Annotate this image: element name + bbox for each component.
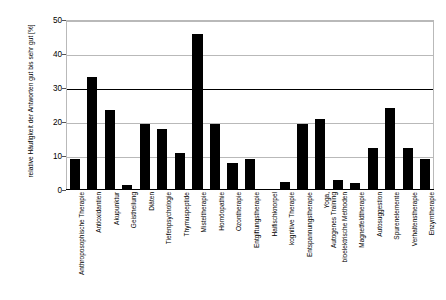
x-tick-label: Tiefenpsychologie (166, 192, 178, 296)
y-tick-label-40: 40 (0, 50, 66, 59)
bar-slot (140, 20, 150, 190)
x-tick-label: Entgiftungstherapie (254, 192, 266, 296)
bar (157, 129, 167, 190)
x-tick-label: Diäten (149, 192, 161, 296)
bar (315, 119, 325, 190)
bar (105, 110, 115, 190)
x-tick-label: Homöopathie (219, 192, 231, 296)
bar-slot (280, 20, 290, 190)
bar (403, 148, 413, 191)
y-tick-label-10: 10 (0, 152, 66, 161)
x-tick-label: bioelektrische Methoden (342, 192, 354, 296)
x-tick-label: Verhaltenstherapie (412, 192, 424, 296)
bar (333, 180, 343, 190)
y-tick-label-30: 30 (0, 84, 66, 93)
bar-slot (262, 20, 272, 190)
bar-slot (350, 20, 360, 190)
bar-slot (192, 20, 202, 190)
bar (192, 34, 202, 190)
x-tick-label: Yoga, Autogenes Training (324, 192, 336, 296)
bar (385, 108, 395, 190)
bar-slot (245, 20, 255, 190)
x-tick-label: Ozontherapie (236, 192, 248, 296)
bar (280, 182, 290, 191)
bar-slot (403, 20, 413, 190)
x-tick-label: Autosuggestion (377, 192, 389, 296)
x-tick-label: Geistheilung (131, 192, 143, 296)
bar-slot (122, 20, 132, 190)
y-tick-label-0: 0 (0, 186, 66, 195)
bar-slot (87, 20, 97, 190)
bar (70, 159, 80, 190)
x-tick-label: Antioxidantien (96, 192, 108, 296)
bar (368, 148, 378, 191)
bar-slot (157, 20, 167, 190)
x-axis-labels: Anthroposophische TherapieAntioxidantien… (66, 192, 434, 298)
bar-slot (227, 20, 237, 190)
y-tick-label-20: 20 (0, 118, 66, 127)
bar (122, 185, 132, 190)
bar-series (66, 20, 434, 190)
bar (210, 124, 220, 190)
bar-chart-figure: relative Häufigkeit der Antworten gut bi… (0, 0, 446, 300)
y-axis-title: relative Häufigkeit der Antworten gut bi… (18, 8, 44, 194)
x-tick-label: Enzymtherapie (429, 192, 441, 296)
x-tick-label: Entspannungstherapie (307, 192, 319, 296)
bar-slot (368, 20, 378, 190)
bar-slot (333, 20, 343, 190)
x-tick-label: Haifischknorpel (272, 192, 284, 296)
bar-slot (315, 20, 325, 190)
x-tick-label: Anthroposophische Therapie (79, 192, 91, 296)
x-tick-label: Spurenelemente (394, 192, 406, 296)
x-tick-label: Misteltherapie (201, 192, 213, 296)
bar (87, 77, 97, 190)
bar (140, 124, 150, 190)
bar-slot (420, 20, 430, 190)
x-tick-label: Magnetfeldtherapie (359, 192, 371, 296)
bar (350, 183, 360, 190)
bar-slot (105, 20, 115, 190)
bar (227, 163, 237, 190)
bar (245, 159, 255, 190)
x-tick-label: Akupunktur (114, 192, 126, 296)
bar-slot (297, 20, 307, 190)
bar-slot (210, 20, 220, 190)
bar-slot (385, 20, 395, 190)
bar (420, 159, 430, 190)
bar (297, 124, 307, 190)
bar-slot (70, 20, 80, 190)
x-tick-label: Thymuspeptide (184, 192, 196, 296)
y-tick-label-50: 50 (0, 16, 66, 25)
bar (175, 153, 185, 190)
x-tick-label: kognitive Therapie (289, 192, 301, 296)
bar-slot (175, 20, 185, 190)
